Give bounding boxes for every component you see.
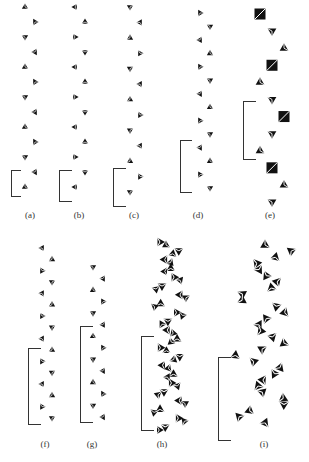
repeat-bracket-h (141, 336, 154, 431)
repeat-bracket-f (28, 348, 41, 425)
repeat-bracket-g (80, 326, 93, 423)
repeat-bracket-d (180, 140, 192, 193)
panel-label-b: (b) (74, 210, 85, 220)
repeat-bracket-a (11, 170, 21, 197)
chain-diagram-i (225, 237, 305, 437)
panel-label-f: (f) (41, 439, 50, 449)
chain-diagram-e (250, 8, 295, 208)
panel-label-d: (d) (193, 210, 204, 220)
repeat-bracket-c (113, 168, 126, 207)
repeat-bracket-i (218, 357, 231, 441)
panel-label-e: (e) (265, 210, 275, 220)
repeat-bracket-b (59, 170, 72, 202)
figure-caption (18, 456, 293, 462)
panel-label-g: (g) (87, 439, 98, 449)
chain-diagram-b (60, 2, 100, 192)
chain-diagram-h (150, 237, 190, 432)
panel-label-a: (a) (25, 210, 35, 220)
panel-label-h: (h) (157, 439, 168, 449)
panel-label-i: (i) (260, 439, 269, 449)
panel-label-c: (c) (129, 210, 139, 220)
repeat-bracket-e (243, 101, 256, 160)
chain-diagram-a (10, 2, 50, 192)
